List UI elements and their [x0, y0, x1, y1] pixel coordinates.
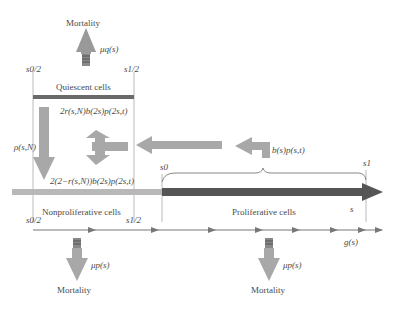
- division-flux: b(s)p(s,t): [272, 145, 305, 155]
- proliferative-start: s0: [160, 162, 168, 172]
- return-flux-top: 2r(s,N)b(2s)p(2s,t): [60, 106, 128, 116]
- nonproliferative-label: Nonproliferative cells: [42, 207, 121, 217]
- proliferative-label: Proliferative cells: [232, 207, 296, 217]
- proliferative-end: s1: [363, 158, 371, 168]
- nonprolif-right-bound: s1/2: [126, 215, 141, 225]
- quiescent-left-bound: s0/2: [26, 64, 41, 74]
- quiescent-bar: [33, 95, 134, 99]
- mortality-up-arrow-icon: [76, 28, 96, 66]
- diagram-canvas: [0, 0, 401, 309]
- fork-arrow-icon: [86, 130, 128, 165]
- top-mortality-rate: μq(s): [100, 44, 119, 54]
- mortality-down-arrow-right-icon: [258, 238, 280, 281]
- transition-rate: ρ(s,N): [14, 142, 36, 152]
- flux-left-arrow-icon: [136, 136, 222, 154]
- top-mortality-label: Mortality: [66, 18, 100, 28]
- proliferative-arrow-head-icon: [362, 183, 383, 201]
- nonproliferative-bar: [12, 189, 162, 195]
- quiescent-label: Quiescent cells: [56, 82, 111, 92]
- nonprolif-left-bound: s0/2: [26, 215, 41, 225]
- bottom-left-mortality-label: Mortality: [57, 285, 91, 295]
- bottom-right-mortality-label: Mortality: [251, 285, 285, 295]
- bottom-left-mortality-rate: μp(s): [91, 260, 110, 270]
- transition-down-arrow-icon: [33, 107, 55, 180]
- return-flux-bottom: 2(2−r(s,N))b(2s)p(2s,t): [50, 176, 134, 186]
- proliferative-brace: [162, 168, 366, 182]
- growth-rate: g(s): [344, 237, 358, 247]
- bottom-right-mortality-rate: μp(s): [283, 260, 302, 270]
- quiescent-right-bound: s1/2: [124, 64, 139, 74]
- proliferative-bar: [162, 188, 362, 196]
- mortality-down-arrow-left-icon: [66, 238, 88, 281]
- division-arrow-icon: [235, 137, 270, 158]
- size-variable: s: [350, 204, 354, 214]
